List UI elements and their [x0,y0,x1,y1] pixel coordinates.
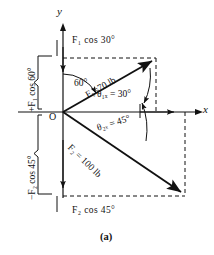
x-axis-label: x [203,104,208,115]
angle-arc-theta2x [142,103,147,141]
brace-connectors [42,56,52,194]
f2-y-component-label: −F₂ cos 45° [28,155,38,200]
origin-label: O [49,112,56,122]
angle-arc-theta1x [144,68,150,103]
f1-y-component-label: +F₁ cos 60° [28,67,38,112]
figure-caption: (a) [100,232,112,243]
y-axis-label: y [57,6,62,17]
theta-1x-label: θ₁ₓ = 30° [97,90,131,100]
f1-x-component-label: F₁ cos 30° [72,36,115,46]
angle-60-label: 60° [74,79,87,89]
f2-x-component-label: F₂ cos 45° [72,206,115,216]
x-axis [18,109,203,115]
vector-diagram: y x O F₁ cos 30° F₂ cos 45° +F₁ cos 60° … [0,0,214,255]
